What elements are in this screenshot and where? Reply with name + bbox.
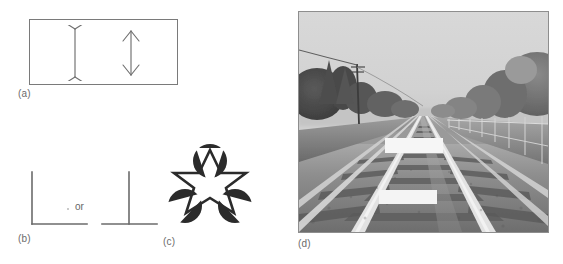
panel-a-label: (a) <box>18 88 31 99</box>
panel-b-label: (b) <box>18 233 31 244</box>
panel-d-ponzo-railway-photo <box>298 11 549 233</box>
panel-a-frame <box>29 19 178 85</box>
muller-lyer-inward-arrowheads-figure <box>115 28 147 78</box>
ponzo-lower-white-bar <box>379 190 437 204</box>
illusion-figure-plate: (a) or (b) <box>0 0 563 264</box>
panel-a-muller-lyer <box>29 19 178 85</box>
corner-separator-dot <box>67 208 69 210</box>
panel-c-kanizsa-figure <box>163 142 257 232</box>
l-corner-shape <box>30 170 90 228</box>
railway-photograph <box>299 12 548 232</box>
kanizsa-illusory-star <box>163 142 257 232</box>
ponzo-upper-white-bar <box>385 138 443 153</box>
photograph-frame <box>298 11 549 233</box>
panel-c-label: (c) <box>163 236 175 247</box>
panel-d-label: (d) <box>298 238 311 249</box>
corner-or-text: or <box>75 201 84 212</box>
panel-b-corner-cues: or <box>22 160 162 230</box>
muller-lyer-outward-fins-figure <box>57 25 93 81</box>
t-junction-shape <box>100 170 160 228</box>
